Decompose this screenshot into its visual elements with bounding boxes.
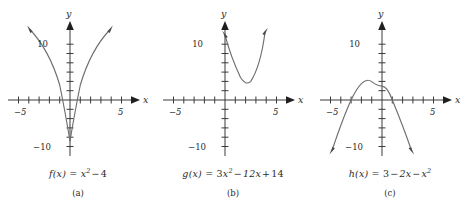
x-axis-arrowhead-icon (131, 96, 140, 104)
x-axis-label: x (298, 94, 304, 105)
coordinate-plane-c: x y −5 5 10 −10 (312, 4, 468, 164)
graph-panel-a: x y −5 5 10 −10 f(x) = x2−4 (a) (0, 0, 156, 212)
equation-open-a: (x) = (53, 168, 81, 179)
equation-term2-a: 4 (101, 168, 107, 179)
equation-caption-a: f(x) = x2−4 (0, 168, 156, 179)
y-axis-label: y (220, 8, 227, 19)
x-tick-label-5: 5 (118, 107, 123, 117)
equation-term2-b: 12x (243, 168, 261, 179)
equation-op1-a: − (91, 168, 101, 179)
parabola-curve-b (225, 32, 265, 83)
y-tick-label-10: 10 (37, 39, 48, 49)
y-axis-arrowhead-icon (221, 21, 229, 30)
curve-right-arrowhead-icon (107, 25, 113, 33)
y-axis-label: y (377, 8, 384, 19)
parabola-curve-c (332, 80, 411, 150)
equation-open-b: (x) = (189, 168, 217, 179)
equation-caption-c: h(x) = 3−2x−x2 (312, 168, 468, 179)
equation-open-c: (x) = (355, 168, 383, 179)
curve-left-arrowhead-icon (27, 25, 33, 33)
equation-op1-c: − (389, 168, 399, 179)
x-tick-label-neg5: −5 (326, 107, 339, 117)
y-tick-label-neg10: −10 (188, 142, 206, 152)
graph-panel-c: x y −5 5 10 −10 h(x) = 3−2x−x2 (c) (312, 0, 468, 212)
equation-caption-b: g(x) = 3x2−12x+14 (155, 168, 311, 179)
y-axis-label: y (65, 8, 72, 19)
x-axis-label: x (455, 94, 461, 105)
plot-area-b: x y −5 5 10 −10 (155, 4, 311, 164)
panel-label-c: (c) (312, 188, 468, 198)
equation-term1-exp-a: 2 (86, 167, 90, 175)
x-tick-label-5: 5 (273, 107, 278, 117)
y-axis-arrowhead-icon (66, 21, 74, 30)
x-axis-arrowhead-icon (286, 96, 295, 104)
panel-label-b: (b) (155, 188, 311, 198)
equation-op2-b: + (261, 168, 271, 179)
y-tick-label-10: 10 (192, 39, 203, 49)
equation-term3-b: 14 (271, 168, 284, 179)
plot-area-c: x y −5 5 10 −10 (312, 4, 468, 164)
y-tick-label-neg10: −10 (33, 142, 51, 152)
quadratic-functions-figure: x y −5 5 10 −10 f(x) = x2−4 (a) (0, 0, 470, 212)
coordinate-plane-b: x y −5 5 10 −10 (155, 4, 311, 164)
coordinate-plane-a: x y −5 5 10 −10 (0, 4, 156, 164)
y-tick-label-neg10: −10 (345, 142, 363, 152)
x-axis-label: x (143, 94, 149, 105)
y-axis-arrowhead-icon (378, 21, 386, 30)
graph-panel-b: x y −5 5 10 −10 g(x) = 3x2−12x+14 (b) (155, 0, 311, 212)
curve-right-arrowhead-icon (409, 147, 415, 155)
equation-op1-b: − (233, 168, 243, 179)
x-tick-label-neg5: −5 (169, 107, 182, 117)
curve-left-arrowhead-icon (329, 147, 335, 155)
x-tick-label-neg5: −5 (14, 107, 27, 117)
curve-right-arrowhead-icon (262, 28, 268, 36)
equation-op2-c: − (411, 168, 421, 179)
equation-term3-exp-c: 2 (427, 167, 431, 175)
x-tick-label-5: 5 (430, 107, 435, 117)
y-tick-label-10: 10 (349, 39, 360, 49)
panel-label-a: (a) (0, 188, 156, 198)
x-axis-arrowhead-icon (443, 96, 452, 104)
plot-area-a: x y −5 5 10 −10 (0, 4, 156, 164)
equation-term2-c: 2x (399, 168, 411, 179)
